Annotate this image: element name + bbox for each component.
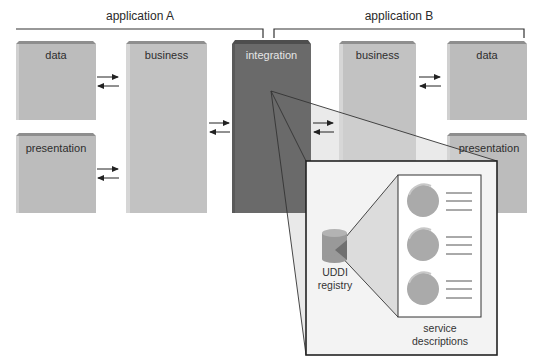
application-a-label: application A [60, 9, 220, 23]
presentation-a-label: presentation [16, 142, 96, 154]
data-a-label: data [16, 49, 96, 61]
uddi-registry-label: UDDI registry [309, 266, 361, 292]
integration-label: integration [232, 49, 311, 61]
uddi-label-line2: registry [309, 279, 361, 292]
arrows-presentation-business-a [97, 169, 119, 178]
business-a-label: business [126, 49, 207, 61]
arrows-business-data-b [419, 77, 441, 86]
uddi-label-line1: UDDI [309, 266, 361, 279]
presentation-b-label: presentation [447, 142, 531, 154]
service-label-line2: descriptions [404, 335, 476, 348]
bracket-application-b [274, 29, 524, 38]
architecture-diagram: application A application B data present… [0, 0, 540, 364]
arrows-data-business-a [97, 77, 119, 86]
business-b-label: business [339, 49, 416, 61]
data-b-label: data [447, 49, 527, 61]
service-label-line1: service [404, 322, 476, 335]
arrows-business-a-integration [209, 123, 230, 132]
box-integration [232, 40, 311, 213]
uddi-registry-database-icon [322, 229, 347, 263]
bracket-application-a [16, 29, 263, 38]
application-b-label: application B [319, 9, 479, 23]
service-descriptions-label: service descriptions [404, 322, 476, 348]
box-business-a [126, 41, 207, 213]
